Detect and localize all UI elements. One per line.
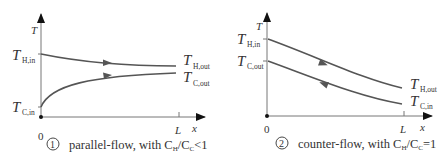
svg-text:parallel-flow, with CH/CC<1: parallel-flow, with CH/CC<1	[69, 138, 208, 153]
svg-text:T: T	[237, 31, 247, 47]
svg-text:2: 2	[279, 138, 284, 149]
svg-text:T: T	[410, 93, 420, 109]
svg-text:1: 1	[50, 139, 55, 150]
x-axis-label: x	[419, 121, 425, 133]
cold-stream-curve	[41, 73, 176, 107]
svg-text:T: T	[183, 52, 193, 68]
x-tick-l: L	[174, 124, 181, 136]
svg-text:T: T	[183, 69, 193, 85]
label-t-c-out: T C,out	[183, 69, 210, 88]
svg-text:H,in: H,in	[247, 40, 260, 49]
svg-text:T: T	[12, 99, 22, 115]
x-tick-zero: 0	[264, 123, 270, 135]
svg-text:T: T	[410, 76, 420, 92]
svg-text:T: T	[237, 53, 247, 69]
y-axis-label: T	[256, 20, 263, 32]
svg-text:H,in: H,in	[22, 56, 35, 65]
parallel-flow-diagram: T x 0 L T H,in T C,in T H,out T C,out 1 …	[12, 14, 211, 153]
svg-text:T: T	[12, 47, 22, 63]
svg-text:C,out: C,out	[193, 79, 210, 88]
label-t-h-in: T H,in	[237, 31, 260, 49]
caption-parallel-flow: 1 parallel-flow, with CH/CC<1	[47, 138, 208, 153]
label-t-h-out: T H,out	[410, 76, 438, 94]
label-t-c-in: T C,in	[410, 93, 433, 111]
svg-text:C,out: C,out	[247, 62, 264, 71]
svg-text:counter-flow, with CH/CC=1: counter-flow, with CH/CC=1	[298, 137, 436, 152]
x-axis-label: x	[191, 122, 197, 134]
counter-flow-diagram: T x 0 L T H,in T C,out T H,out T C,in 2 …	[237, 13, 438, 152]
hot-flow-arrow-icon	[103, 60, 112, 67]
y-axis-label: T	[31, 24, 38, 36]
heat-exchanger-diagrams: T x 0 L T H,in T C,in T H,out T C,out 1 …	[0, 0, 445, 163]
svg-text:C,in: C,in	[420, 102, 433, 111]
hot-stream-curve	[41, 54, 176, 66]
x-tick-zero: 0	[38, 130, 44, 142]
label-t-c-in: T C,in	[12, 99, 35, 117]
label-t-h-in: T H,in	[12, 47, 35, 65]
svg-text:H,out: H,out	[193, 62, 211, 71]
label-t-c-out: T C,out	[237, 53, 264, 71]
origin-dot	[39, 115, 43, 119]
svg-text:H,out: H,out	[420, 85, 438, 94]
origin-dot	[265, 114, 269, 118]
hot-stream-curve	[268, 39, 402, 88]
svg-text:C,in: C,in	[22, 108, 35, 117]
caption-counter-flow: 2 counter-flow, with CH/CC=1	[276, 137, 436, 152]
x-tick-l: L	[399, 123, 406, 135]
